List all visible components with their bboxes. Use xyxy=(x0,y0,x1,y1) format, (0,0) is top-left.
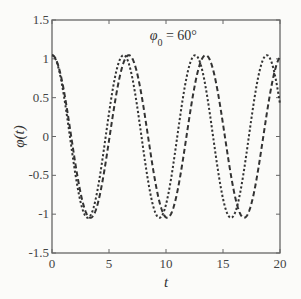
y-tick-label: 1.5 xyxy=(33,12,49,27)
y-axis-label: φ(t) xyxy=(11,125,28,147)
x-tick-label: 0 xyxy=(49,256,56,271)
pendulum-angle-chart: 05101520-1.5-1-0.500.511.5 φ0 = 60° t φ(… xyxy=(0,0,301,299)
phi-value: = 60° xyxy=(162,28,197,43)
phi0-annotation: φ0 = 60° xyxy=(150,28,197,48)
x-tick-label: 10 xyxy=(160,256,173,271)
y-tick-label: 0.5 xyxy=(33,90,49,105)
axis-ticks: 05101520-1.5-1-0.500.511.5 xyxy=(28,12,286,271)
dashed-series-line xyxy=(52,55,280,218)
dotted-series-line xyxy=(52,55,280,218)
x-tick-label: 5 xyxy=(106,256,113,271)
y-tick-label: -0.5 xyxy=(28,167,49,182)
y-tick-label: 0 xyxy=(43,129,50,144)
x-tick-label: 15 xyxy=(217,256,230,271)
x-tick-label: 20 xyxy=(274,256,287,271)
x-axis-label: t xyxy=(164,274,169,290)
y-tick-label: -1 xyxy=(38,206,49,221)
y-tick-label: -1.5 xyxy=(28,245,49,260)
y-tick-label: 1 xyxy=(43,51,50,66)
data-series xyxy=(52,55,280,218)
